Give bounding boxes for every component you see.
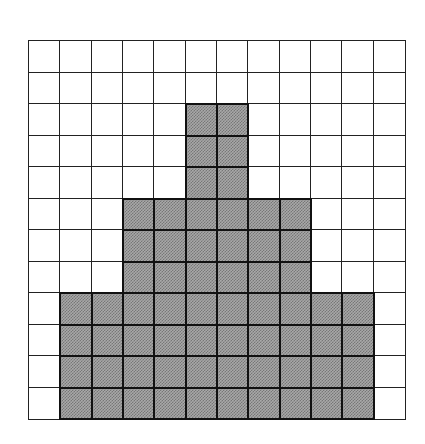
filled-cell: [217, 262, 248, 294]
empty-cell: [217, 73, 248, 105]
filled-cell: [123, 356, 154, 388]
empty-cell: [60, 199, 91, 231]
filled-cell: [280, 230, 311, 262]
empty-cell: [29, 136, 60, 168]
empty-cell: [311, 136, 342, 168]
filled-cell: [248, 199, 279, 231]
filled-cell: [217, 325, 248, 357]
filled-cell: [60, 388, 91, 420]
filled-cell: [154, 199, 185, 231]
filled-cell: [186, 293, 217, 325]
filled-cell: [280, 388, 311, 420]
stepped-grid-diagram: [28, 40, 406, 420]
filled-cell: [217, 356, 248, 388]
empty-cell: [374, 356, 405, 388]
empty-cell: [154, 167, 185, 199]
empty-cell: [374, 199, 405, 231]
empty-cell: [374, 104, 405, 136]
empty-cell: [92, 73, 123, 105]
empty-cell: [248, 104, 279, 136]
filled-cell: [248, 325, 279, 357]
filled-cell: [311, 388, 342, 420]
empty-cell: [154, 104, 185, 136]
filled-cell: [248, 356, 279, 388]
empty-cell: [280, 73, 311, 105]
empty-cell: [123, 41, 154, 73]
empty-cell: [248, 41, 279, 73]
filled-cell: [154, 230, 185, 262]
filled-cell: [248, 388, 279, 420]
empty-cell: [92, 199, 123, 231]
empty-cell: [123, 136, 154, 168]
filled-cell: [123, 199, 154, 231]
empty-cell: [29, 167, 60, 199]
empty-cell: [217, 41, 248, 73]
filled-cell: [217, 136, 248, 168]
filled-cell: [186, 325, 217, 357]
filled-cell: [92, 388, 123, 420]
empty-cell: [311, 230, 342, 262]
filled-cell: [217, 199, 248, 231]
empty-cell: [280, 167, 311, 199]
empty-cell: [342, 262, 373, 294]
empty-cell: [311, 167, 342, 199]
empty-cell: [60, 104, 91, 136]
filled-cell: [123, 325, 154, 357]
empty-cell: [342, 104, 373, 136]
empty-cell: [60, 73, 91, 105]
empty-cell: [60, 230, 91, 262]
filled-cell: [186, 230, 217, 262]
empty-cell: [123, 167, 154, 199]
empty-cell: [60, 262, 91, 294]
empty-cell: [92, 41, 123, 73]
filled-cell: [217, 230, 248, 262]
empty-cell: [374, 230, 405, 262]
empty-cell: [342, 230, 373, 262]
empty-cell: [123, 104, 154, 136]
empty-cell: [374, 388, 405, 420]
empty-cell: [60, 167, 91, 199]
filled-cell: [154, 356, 185, 388]
filled-cell: [92, 325, 123, 357]
filled-cell: [311, 356, 342, 388]
empty-cell: [123, 73, 154, 105]
filled-cell: [248, 262, 279, 294]
filled-cell: [217, 167, 248, 199]
filled-cell: [60, 356, 91, 388]
filled-cell: [92, 356, 123, 388]
empty-cell: [186, 41, 217, 73]
empty-cell: [280, 104, 311, 136]
filled-cell: [280, 199, 311, 231]
empty-cell: [29, 199, 60, 231]
empty-cell: [154, 41, 185, 73]
empty-cell: [342, 73, 373, 105]
filled-cell: [280, 293, 311, 325]
empty-cell: [29, 325, 60, 357]
empty-cell: [248, 73, 279, 105]
filled-cell: [123, 293, 154, 325]
filled-cell: [311, 293, 342, 325]
empty-cell: [29, 293, 60, 325]
empty-cell: [92, 230, 123, 262]
empty-cell: [374, 167, 405, 199]
empty-cell: [29, 230, 60, 262]
filled-cell: [342, 293, 373, 325]
empty-cell: [60, 41, 91, 73]
empty-cell: [311, 104, 342, 136]
empty-cell: [311, 262, 342, 294]
empty-cell: [154, 73, 185, 105]
empty-cell: [374, 262, 405, 294]
empty-cell: [374, 73, 405, 105]
empty-cell: [342, 136, 373, 168]
filled-cell: [186, 388, 217, 420]
filled-cell: [60, 325, 91, 357]
filled-cell: [217, 104, 248, 136]
filled-cell: [280, 325, 311, 357]
filled-cell: [248, 230, 279, 262]
filled-cell: [342, 388, 373, 420]
filled-cell: [123, 388, 154, 420]
filled-cell: [342, 356, 373, 388]
filled-cell: [154, 262, 185, 294]
empty-cell: [280, 41, 311, 73]
empty-cell: [29, 356, 60, 388]
